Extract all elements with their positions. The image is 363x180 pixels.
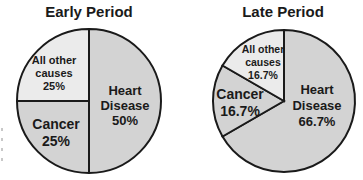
early-other-label-1: All other [32, 54, 77, 66]
early-other-label-2: causes [35, 67, 72, 79]
late-other-pct: 16.7% [248, 69, 278, 81]
late-other-label-2: causes [245, 56, 281, 68]
early-heart-label-1: Heart [108, 83, 142, 98]
early-heart-label-2: Disease [100, 98, 149, 113]
late-heart-label-2: Disease [292, 98, 341, 113]
late-period-pie: All other causes 16.7% Cancer 16.7% Hear… [213, 30, 355, 172]
late-cancer-label: Cancer [216, 86, 264, 102]
pie-charts: All other causes 25% Heart Disease 50% C… [0, 0, 363, 180]
early-period-pie: All other causes 25% Heart Disease 50% C… [17, 29, 161, 173]
early-heart-pct: 50% [112, 113, 138, 128]
late-heart-label-1: Heart [300, 82, 334, 97]
late-other-label-1: All other [242, 43, 285, 55]
early-cancer-label: Cancer [32, 116, 80, 132]
early-cancer-pct: 25% [42, 133, 71, 149]
early-other-pct: 25% [43, 80, 65, 92]
late-cancer-pct: 16.7% [220, 103, 260, 119]
late-heart-pct: 66.7% [299, 114, 336, 129]
